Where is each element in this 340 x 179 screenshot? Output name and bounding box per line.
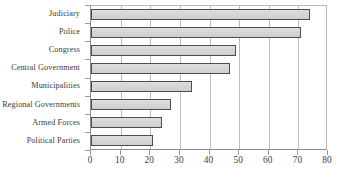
bar	[91, 27, 301, 38]
category-label: Municipalities	[0, 78, 84, 96]
bar	[91, 9, 310, 20]
axis-tick-label: 40	[204, 156, 213, 165]
category-label: Judiciary	[0, 5, 84, 23]
axis-tick-label: 20	[145, 156, 154, 165]
axis-tick-label: 60	[263, 156, 272, 165]
category-label: Central Government	[0, 59, 84, 77]
bar-row	[91, 131, 326, 149]
bar	[91, 117, 162, 128]
bar	[91, 135, 153, 146]
bar	[91, 81, 192, 92]
axis-tick-label: 10	[115, 156, 124, 165]
bar-row	[91, 95, 326, 113]
bar	[91, 45, 236, 56]
bar	[91, 63, 230, 74]
bar-row	[91, 42, 326, 60]
axis-tick-label: 50	[233, 156, 242, 165]
category-label: Political Parties	[0, 132, 84, 150]
bar	[91, 99, 171, 110]
axis-tick-label: 80	[322, 156, 331, 165]
axis-tick-label: 70	[293, 156, 302, 165]
bar-series	[91, 6, 326, 149]
bar-row	[91, 60, 326, 78]
category-label: Police	[0, 23, 84, 41]
category-label: Congress	[0, 41, 84, 59]
plot-area	[90, 5, 327, 150]
bar-chart: Judiciary Police Congress Central Govern…	[0, 0, 340, 179]
axis-tick-label: 0	[88, 156, 93, 165]
bar-row	[91, 24, 326, 42]
category-label: Regional Governments	[0, 96, 84, 114]
axis-tick-label: 30	[174, 156, 183, 165]
category-axis-labels: Judiciary Police Congress Central Govern…	[0, 5, 84, 150]
value-axis-labels: 01020304050607080	[90, 156, 327, 172]
bar-row	[91, 6, 326, 24]
bar-row	[91, 78, 326, 96]
category-label: Armed Forces	[0, 114, 84, 132]
bar-row	[91, 113, 326, 131]
